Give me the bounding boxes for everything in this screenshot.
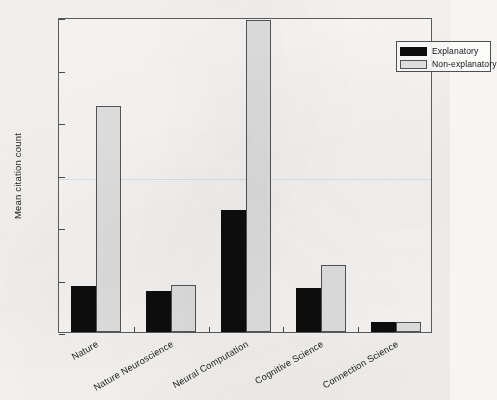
bar-non-explanatory <box>321 265 346 332</box>
bar-explanatory <box>371 322 396 332</box>
bar-non-explanatory <box>171 285 196 332</box>
bar-non-explanatory <box>396 322 421 333</box>
bar-explanatory <box>71 286 96 332</box>
y-tick-mark <box>59 282 65 283</box>
y-tick-mark <box>59 177 65 178</box>
y-tick-mark <box>59 72 65 73</box>
chart-legend: Explanatory Non-explanatory <box>396 41 491 72</box>
legend-item-explanatory: Explanatory <box>400 45 487 57</box>
y-tick-mark <box>59 334 65 335</box>
x-tick-mark <box>283 327 284 332</box>
legend-label-non-explanatory: Non-explanatory <box>432 59 497 69</box>
y-tick-mark <box>59 19 65 20</box>
legend-swatch-non-explanatory <box>400 60 427 69</box>
x-tick-mark <box>134 327 135 332</box>
legend-item-non-explanatory: Non-explanatory <box>400 58 487 70</box>
x-tick-mark <box>209 327 210 332</box>
plot-area: Explanatory Non-explanatory <box>58 18 432 333</box>
legend-label-explanatory: Explanatory <box>432 46 478 56</box>
y-tick-mark <box>59 124 65 125</box>
bar-non-explanatory <box>96 106 121 332</box>
legend-swatch-explanatory <box>400 47 427 56</box>
bar-non-explanatory <box>246 20 271 332</box>
bar-explanatory <box>146 291 171 332</box>
y-tick-mark <box>59 229 65 230</box>
bar-explanatory <box>296 288 321 332</box>
bar-explanatory <box>221 210 246 332</box>
y-axis-title: Mean citation count <box>12 133 23 219</box>
x-tick-mark <box>358 327 359 332</box>
